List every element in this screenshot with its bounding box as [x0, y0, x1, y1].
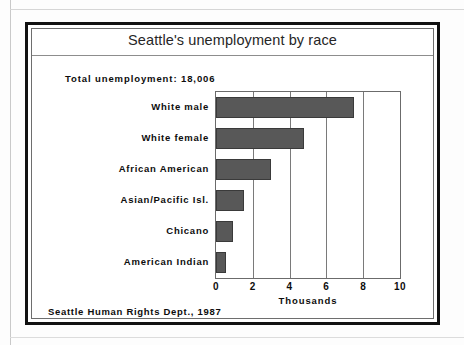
chart-figure-inner: Seattle's unemployment by race Total une… — [31, 28, 434, 319]
bar — [216, 159, 271, 180]
source-annotation: Seattle Human Rights Dept., 1987 — [48, 306, 221, 317]
bar — [216, 128, 304, 149]
bar — [216, 190, 244, 211]
chart-title: Seattle's unemployment by race — [32, 32, 433, 48]
x-tick-label: 8 — [360, 281, 366, 292]
x-axis-tick-labels: 0246810 — [215, 281, 401, 295]
bar-row — [216, 247, 226, 278]
x-tick-label: 2 — [250, 281, 256, 292]
page-margin-rule — [10, 0, 11, 345]
bar-row — [216, 92, 354, 123]
bar-row — [216, 154, 271, 185]
category-label: American Indian — [49, 256, 209, 267]
x-tick-label: 4 — [287, 281, 293, 292]
bar-row — [216, 185, 244, 216]
x-axis-title: Thousands — [215, 295, 401, 306]
category-label: Asian/Pacific Isl. — [49, 194, 209, 205]
bar — [216, 221, 233, 242]
x-tick-label: 10 — [394, 281, 406, 292]
bar — [216, 252, 226, 273]
x-tick-label: 0 — [213, 281, 219, 292]
category-label: African American — [49, 163, 209, 174]
gridline — [363, 92, 364, 278]
bar-row — [216, 123, 304, 154]
bar — [216, 97, 354, 118]
x-tick-label: 6 — [323, 281, 329, 292]
total-unemployment-annotation: Total unemployment: 18,006 — [65, 73, 215, 84]
category-label: White male — [49, 101, 209, 112]
category-label: Chicano — [49, 225, 209, 236]
scanned-page: Seattle's unemployment by race Total une… — [0, 0, 464, 345]
chart-title-bar: Seattle's unemployment by race — [32, 29, 433, 56]
page-top-rule — [10, 9, 464, 10]
page-bottom-rule — [10, 337, 464, 338]
category-axis-labels: White maleWhite femaleAfrican AmericanAs… — [49, 91, 209, 279]
plot-area — [215, 91, 401, 279]
bar-row — [216, 216, 233, 247]
chart-figure-frame: Seattle's unemployment by race Total une… — [25, 22, 440, 325]
category-label: White female — [49, 132, 209, 143]
